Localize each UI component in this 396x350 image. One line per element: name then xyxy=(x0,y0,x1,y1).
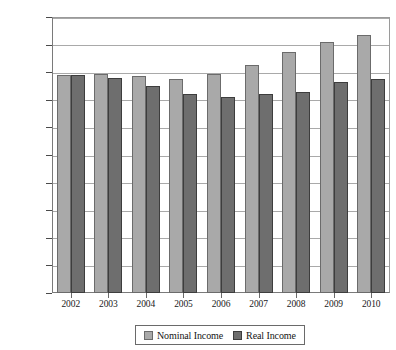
x-axis-tick-mark xyxy=(296,293,297,298)
bar-2006-nominal xyxy=(207,74,221,293)
x-axis-tick-mark xyxy=(71,293,72,298)
legend-swatch-icon xyxy=(144,331,153,340)
bar-2007-nominal xyxy=(245,65,259,293)
x-axis-tick-label: 2010 xyxy=(349,299,393,309)
x-axis-tick-mark xyxy=(146,293,147,298)
bar-2009-real xyxy=(334,82,348,293)
y-axis-tick-mark xyxy=(46,293,52,294)
bar-2010-nominal xyxy=(357,35,371,293)
chart-legend: Nominal IncomeReal Income xyxy=(135,325,305,345)
bar-2002-real xyxy=(71,75,85,293)
bar-2008-nominal xyxy=(282,52,296,294)
bar-2009-nominal xyxy=(320,42,334,293)
bar-2005-real xyxy=(183,94,197,293)
bar-2003-real xyxy=(108,78,122,293)
x-axis-tick-mark xyxy=(334,293,335,298)
bar-2006-real xyxy=(221,97,235,293)
legend-label: Nominal Income xyxy=(157,330,223,341)
x-axis-tick-mark xyxy=(108,293,109,298)
bar-2004-real xyxy=(146,86,160,293)
x-axis-tick-mark xyxy=(183,293,184,298)
x-axis-tick-mark xyxy=(221,293,222,298)
bar-2010-real xyxy=(371,79,385,293)
legend-entry-nominal-income: Nominal Income xyxy=(144,330,223,341)
legend-swatch-icon xyxy=(233,331,242,340)
bar-chart: $0$20,000$40,000$60,000$80,000$100,000$1… xyxy=(0,0,396,350)
legend-entry-real-income: Real Income xyxy=(233,330,296,341)
bar-2007-real xyxy=(259,94,273,293)
x-axis-tick-mark xyxy=(259,293,260,298)
bar-2003-nominal xyxy=(94,74,108,293)
bar-2002-nominal xyxy=(57,75,71,293)
x-axis-tick-mark xyxy=(371,293,372,298)
bar-2008-real xyxy=(296,92,310,293)
legend-label: Real Income xyxy=(246,330,296,341)
bar-2004-nominal xyxy=(132,76,146,293)
bars-layer xyxy=(52,17,390,293)
bar-2005-nominal xyxy=(169,79,183,293)
